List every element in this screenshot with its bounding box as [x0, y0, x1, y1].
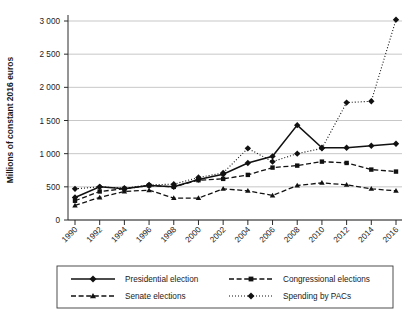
- x-axis-tick-labels: 1990199219941996199820002002200420062008…: [60, 225, 401, 245]
- y-axis-tick-labels: 05001 0001 5002 0002 5003 000: [40, 17, 61, 225]
- x-tick-label: 2002: [208, 225, 228, 245]
- legend-label: Congressional elections: [283, 275, 370, 284]
- data-point-square: [221, 177, 225, 181]
- data-point-diamond: [97, 184, 103, 190]
- data-point-triangle: [146, 187, 152, 192]
- data-point-diamond: [368, 143, 374, 149]
- data-point-square: [73, 199, 77, 203]
- x-tick-label: 2014: [356, 225, 376, 245]
- series-2: [73, 159, 398, 203]
- legend-label: Spending by PACs: [283, 292, 351, 301]
- x-tick-label: 2016: [381, 225, 401, 245]
- data-point-diamond: [368, 98, 374, 104]
- line-chart: 05001 0001 5002 0002 5003 000 1990199219…: [0, 0, 410, 319]
- data-point-square: [246, 173, 250, 177]
- x-tick-label: 2006: [258, 225, 278, 245]
- y-tick-label: 1 500: [40, 117, 61, 126]
- x-tick-label: 1996: [134, 225, 154, 245]
- y-axis-tick-marks: [64, 21, 68, 220]
- data-point-diamond: [294, 150, 300, 156]
- axis-lines: [68, 15, 402, 220]
- gridlines-group: [68, 21, 402, 220]
- series-3: [72, 180, 399, 207]
- legend-item[interactable]: Presidential election: [71, 275, 199, 284]
- y-tick-label: 1 000: [40, 150, 61, 159]
- x-tick-label: 2012: [332, 225, 352, 245]
- legend-border: [57, 266, 393, 308]
- y-tick-label: 2 500: [40, 50, 61, 59]
- legend-item[interactable]: Congressional elections: [229, 275, 370, 284]
- data-point-diamond: [343, 99, 349, 105]
- data-point-square: [295, 163, 299, 167]
- data-point-diamond: [245, 145, 251, 151]
- x-tick-label: 1994: [110, 225, 130, 245]
- legend-item[interactable]: Spending by PACs: [229, 292, 351, 301]
- x-tick-label: 2008: [282, 225, 302, 245]
- legend-label: Presidential election: [125, 275, 199, 284]
- y-tick-label: 2 000: [40, 83, 61, 92]
- data-series-group: [72, 16, 399, 207]
- series-4: [72, 16, 399, 192]
- data-point-diamond: [248, 293, 255, 300]
- data-point-square: [270, 165, 274, 169]
- y-axis-title: Millions of constant 2016 euros: [5, 56, 15, 183]
- x-tick-label: 2010: [307, 225, 327, 245]
- y-tick-label: 0: [55, 216, 60, 225]
- series-line: [75, 162, 396, 201]
- data-point-square: [249, 277, 254, 282]
- x-tick-label: 1990: [60, 225, 80, 245]
- chart-legend: Presidential electionCongressional elect…: [57, 266, 393, 308]
- data-point-diamond: [269, 158, 275, 164]
- data-point-square: [320, 159, 324, 163]
- data-point-diamond: [245, 160, 251, 166]
- data-point-square: [394, 169, 398, 173]
- data-point-diamond: [90, 276, 97, 283]
- data-point-square: [344, 161, 348, 165]
- y-tick-label: 500: [46, 183, 60, 192]
- data-point-triangle: [97, 195, 103, 200]
- chart-container: 05001 0001 5002 0002 5003 000 1990199219…: [0, 0, 410, 319]
- x-tick-label: 1992: [85, 225, 105, 245]
- data-point-diamond: [393, 141, 399, 147]
- data-point-diamond: [343, 145, 349, 151]
- x-tick-label: 2000: [184, 225, 204, 245]
- data-point-diamond: [121, 185, 127, 191]
- x-axis-tick-marks: [75, 220, 396, 225]
- x-tick-label: 2004: [233, 225, 253, 245]
- legend-item[interactable]: Senate elections: [71, 292, 186, 301]
- legend-label: Senate elections: [125, 292, 186, 301]
- data-point-diamond: [393, 16, 399, 22]
- y-tick-label: 3 000: [40, 17, 61, 26]
- data-point-square: [369, 167, 373, 171]
- x-tick-label: 1998: [159, 225, 179, 245]
